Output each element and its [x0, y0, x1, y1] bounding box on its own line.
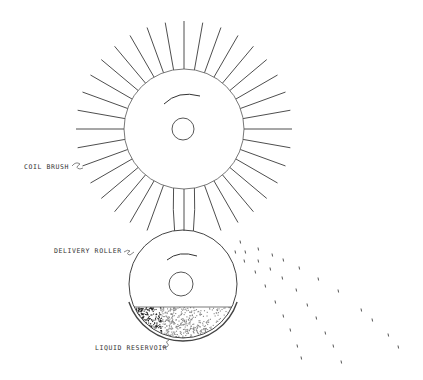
bristle	[130, 35, 154, 77]
droplet	[338, 290, 339, 293]
bristle	[115, 46, 146, 83]
droplet	[299, 267, 300, 270]
droplet	[388, 334, 389, 337]
coil-brush-label: COIL BRUSH	[24, 163, 69, 171]
droplet	[361, 309, 362, 312]
delivery-roller-label: DELIVERY ROLLER	[54, 247, 122, 255]
bristle	[101, 60, 138, 91]
bristle	[165, 23, 173, 70]
droplet	[316, 317, 317, 320]
liquid-reservoir-label: LIQUID RESERVOIR	[95, 344, 167, 352]
droplet	[282, 277, 283, 280]
coil-brush-axle	[172, 118, 194, 140]
bristle	[230, 168, 267, 199]
bristle	[147, 185, 163, 230]
brush-roller-drawing	[0, 0, 423, 380]
droplet	[265, 285, 266, 288]
droplet	[275, 301, 276, 304]
droplet	[258, 260, 259, 263]
bristle	[130, 181, 154, 223]
diagram-canvas: COIL BRUSH DELIVERY ROLLER LIQUID RESERV…	[0, 0, 423, 380]
bristle	[223, 46, 254, 83]
bristle	[78, 139, 125, 147]
droplet	[255, 271, 256, 274]
spray-droplets	[235, 241, 399, 364]
bristle	[243, 139, 290, 147]
bristle	[230, 60, 267, 91]
droplet	[372, 319, 373, 322]
droplet	[307, 304, 308, 307]
bristle	[147, 28, 163, 73]
bristle	[243, 110, 290, 118]
bristle	[173, 188, 174, 231]
droplet	[290, 329, 291, 332]
droplet	[297, 345, 298, 348]
bristle	[240, 92, 285, 108]
droplet	[296, 289, 297, 292]
droplet	[333, 345, 334, 348]
delivery-roller-axle	[169, 272, 193, 296]
coil-brush-bristles	[76, 21, 292, 231]
droplet	[258, 248, 259, 251]
droplet	[283, 315, 284, 318]
bristle	[240, 150, 285, 166]
rotation-arrow-icon	[167, 254, 197, 260]
droplet	[272, 254, 273, 257]
bristle	[214, 35, 238, 77]
liquid-reservoir-bowl	[129, 302, 237, 341]
delivery-roller	[129, 230, 237, 338]
rotation-arrow-icon	[164, 94, 200, 104]
bristle	[205, 185, 221, 230]
droplet	[341, 361, 342, 364]
droplet	[270, 268, 271, 271]
bristle	[214, 181, 238, 223]
bristle	[236, 75, 278, 99]
bristle	[83, 150, 128, 166]
bristle	[101, 168, 138, 199]
droplet	[301, 357, 302, 360]
droplet	[244, 260, 245, 263]
droplet	[235, 251, 236, 254]
bristle	[115, 175, 146, 212]
droplet	[240, 241, 241, 244]
coil-brush-leader	[72, 163, 83, 169]
coil-brush-hub	[124, 69, 244, 189]
bristle	[193, 188, 194, 231]
bristle	[236, 159, 278, 183]
delivery-roller-leader	[124, 250, 134, 255]
droplet	[398, 346, 399, 349]
droplet	[325, 332, 326, 335]
bristle	[223, 175, 254, 212]
bristle	[83, 92, 128, 108]
bristle	[90, 159, 132, 183]
bristle	[194, 23, 202, 70]
droplet	[283, 259, 284, 262]
bristle	[78, 110, 125, 118]
droplet	[318, 278, 319, 281]
droplet	[245, 251, 246, 254]
bristle	[90, 75, 132, 99]
bristle	[205, 28, 221, 73]
